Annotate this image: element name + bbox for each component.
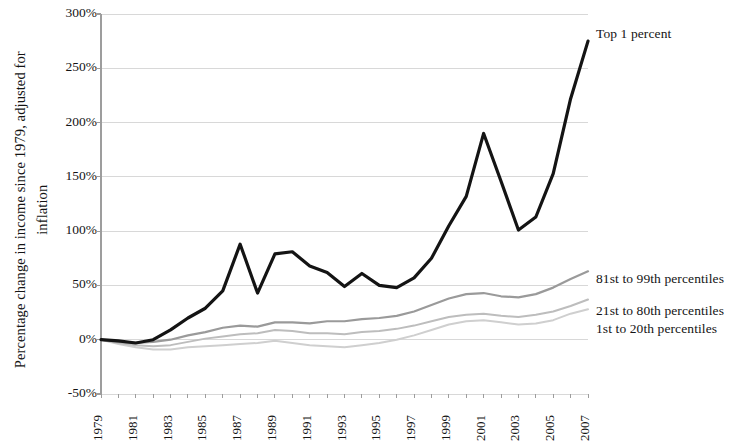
series-label-3: 21st to 80th percentiles bbox=[596, 303, 724, 319]
x-axis-tick-label: 1985 bbox=[194, 415, 210, 441]
income-change-line-chart: Percentage change in income since 1979, … bbox=[0, 0, 729, 441]
x-axis-tick-label: 1991 bbox=[299, 415, 315, 441]
series-label-2: 81st to 99th percentiles bbox=[596, 271, 724, 287]
x-axis-tick-label: 2003 bbox=[507, 415, 523, 441]
series-label-4: 1st to 20th percentiles bbox=[596, 321, 717, 337]
x-axis-tick-label: 1997 bbox=[403, 415, 419, 441]
plot-area bbox=[0, 0, 729, 441]
x-axis-tick-label: 1989 bbox=[264, 415, 280, 441]
x-axis-tick-label: 1987 bbox=[229, 415, 245, 441]
x-axis-tick-label: 2007 bbox=[577, 415, 593, 441]
x-axis-tick-label: 1979 bbox=[90, 415, 106, 441]
x-axis-tick-label: 1981 bbox=[125, 415, 141, 441]
x-axis-tick-label: 1999 bbox=[438, 415, 454, 441]
series-line bbox=[101, 271, 588, 343]
x-axis-tick-label: 2005 bbox=[542, 415, 558, 441]
x-axis-tick-label: 1993 bbox=[334, 415, 350, 441]
x-axis-tick-label: 1983 bbox=[160, 415, 176, 441]
series-label-1: Top 1 percent bbox=[596, 26, 671, 42]
x-axis-tick-labels: 1979198119831985198719891991199319951997… bbox=[0, 388, 729, 441]
x-axis-tick-label: 1995 bbox=[368, 415, 384, 441]
x-axis-tick-label: 2001 bbox=[473, 415, 489, 441]
